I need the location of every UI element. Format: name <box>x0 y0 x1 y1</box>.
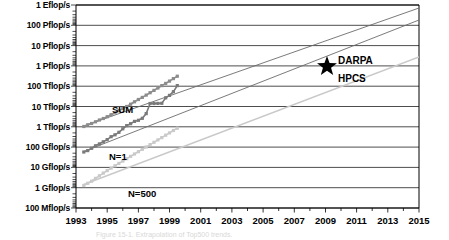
chart-figure: 1 Eflop/s 100 Pflop/s 10 Pflop/s 1 Pflop… <box>0 0 449 240</box>
figure-caption: Figure 15-1. Extrapolation of Top500 tre… <box>96 231 232 238</box>
n1-series-label: N=1 <box>109 151 127 162</box>
darpa-label: DARPA <box>338 55 373 66</box>
x-axis-labels: 1993 1995 1997 1999 2001 2003 2005 2007 … <box>0 0 449 240</box>
n500-series-label: N=500 <box>128 188 156 199</box>
sum-series-label: SUM <box>112 104 133 115</box>
hpcs-label: HPCS <box>338 73 366 84</box>
x-tick-label: 2015 <box>399 215 439 226</box>
